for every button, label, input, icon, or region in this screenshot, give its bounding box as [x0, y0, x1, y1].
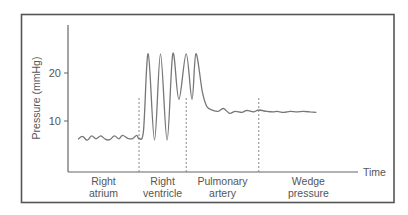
segment-label-line1: Pulmonary [197, 175, 248, 187]
x-axis-title: Time [363, 166, 386, 178]
segment-label-line2: artery [209, 187, 237, 199]
segment-label-line1: Wedge [292, 175, 325, 187]
chart: Pressure (mmHg) Time 1020 RightatriumRig… [0, 0, 408, 215]
segment-label-line2: atrium [89, 187, 118, 199]
segment-label-line2: pressure [288, 187, 329, 199]
y-tick-label: 10 [49, 115, 61, 127]
y-tick-label: 20 [49, 67, 61, 79]
pressure-trace-line [78, 53, 316, 140]
segment-label-line1: Right [91, 175, 116, 187]
y-axis-title: Pressure (mmHg) [30, 57, 42, 140]
segment-label-line2: ventricle [143, 187, 182, 199]
segment-label-line1: Right [150, 175, 175, 187]
